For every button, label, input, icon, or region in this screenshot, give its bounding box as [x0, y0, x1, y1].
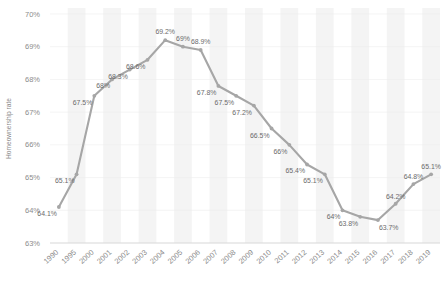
data-point-label: 69.2% — [155, 28, 175, 35]
data-point-marker — [412, 182, 416, 186]
x-tick-label: 2004 — [148, 248, 166, 266]
data-point-marker — [252, 104, 256, 108]
chart-canvas: 63%64%65%66%67%68%69%70% 199019952000200… — [0, 0, 446, 286]
x-tick-label: 2016 — [361, 248, 379, 266]
y-tick-label: 70% — [25, 10, 40, 19]
x-tick-label: 2018 — [396, 248, 414, 266]
data-point-marker — [305, 163, 309, 167]
x-tick-label: 2011 — [273, 248, 291, 265]
x-tick-label: 2000 — [77, 248, 95, 266]
data-point-label: 68.6% — [126, 63, 146, 70]
data-point-label: 64.1% — [37, 210, 57, 217]
data-point-marker — [270, 127, 274, 131]
x-tick-label: 2007 — [201, 248, 219, 266]
data-point-label: 67.2% — [232, 109, 252, 116]
data-point-marker — [287, 143, 291, 147]
data-point-label: 67.5% — [215, 99, 235, 106]
background-band — [68, 8, 86, 243]
background-band — [422, 8, 440, 243]
y-tick-label: 65% — [25, 173, 40, 182]
data-point-label: 65.4% — [285, 167, 305, 174]
data-point-marker — [217, 84, 221, 88]
y-tick-label: 67% — [25, 108, 40, 117]
y-tick-label: 69% — [25, 42, 40, 51]
background-band — [103, 8, 121, 243]
y-tick-label: 66% — [25, 140, 40, 149]
data-point-label: 66.5% — [250, 132, 270, 139]
data-point-marker — [429, 172, 433, 176]
data-point-labels: 64.1%65.1%67.5%68%68.3%68.6%69.2%69%68.9… — [37, 28, 441, 231]
x-tick-label: 2013 — [308, 248, 326, 266]
data-point-marker — [163, 38, 167, 42]
data-point-marker — [323, 172, 327, 176]
background-band — [210, 8, 228, 243]
data-point-label: 65.1% — [55, 177, 75, 184]
alternating-background-bands — [68, 8, 440, 243]
data-point-marker — [394, 202, 398, 206]
y-tick-label: 68% — [25, 75, 40, 84]
background-band — [139, 8, 157, 243]
x-tick-label: 1990 — [42, 248, 60, 266]
x-tick-label: 2017 — [379, 248, 397, 266]
data-point-marker — [181, 45, 185, 49]
homeownership-rate-line-chart: 63%64%65%66%67%68%69%70% 199019952000200… — [0, 0, 446, 286]
data-point-label: 63.7% — [379, 224, 399, 231]
data-point-marker — [358, 215, 362, 219]
data-point-label: 66% — [274, 148, 288, 155]
data-point-label: 65.1% — [303, 177, 323, 184]
x-tick-label: 2001 — [95, 248, 113, 266]
data-point-marker — [376, 218, 380, 222]
background-band — [245, 8, 263, 243]
data-point-marker — [146, 58, 150, 62]
x-tick-label: 2012 — [290, 248, 308, 266]
data-point-marker — [341, 208, 345, 212]
x-tick-label: 2006 — [184, 248, 202, 266]
data-point-label: 64.8% — [404, 173, 424, 180]
background-band — [316, 8, 334, 243]
x-tick-label: 2019 — [414, 248, 432, 266]
x-tick-label: 2005 — [166, 248, 184, 266]
background-band — [387, 8, 405, 243]
data-point-label: 69% — [176, 35, 190, 42]
data-point-marker — [199, 48, 203, 52]
x-tick-label: 2008 — [219, 248, 237, 266]
data-point-label: 63.8% — [339, 220, 359, 227]
data-point-marker — [92, 94, 96, 98]
data-point-label: 65.1% — [421, 163, 441, 170]
data-point-label: 68.3% — [108, 73, 128, 80]
background-band — [351, 8, 369, 243]
data-point-marker — [234, 94, 238, 98]
background-band — [174, 8, 192, 243]
data-point-marker — [75, 172, 79, 176]
data-point-marker — [57, 205, 61, 209]
x-axis-tick-labels: 1990199520002001200220032004200520062007… — [42, 248, 433, 266]
y-axis-title: Homeownership rate — [5, 98, 13, 159]
x-tick-label: 2014 — [325, 248, 343, 266]
y-axis-title-text: Homeownership rate — [5, 98, 13, 159]
y-tick-label: 63% — [25, 239, 40, 248]
x-tick-label: 1995 — [60, 248, 78, 266]
data-point-label: 67.8% — [197, 89, 217, 96]
data-point-label: 67.5% — [73, 99, 93, 106]
x-tick-label: 2002 — [113, 248, 131, 266]
data-point-label: 64.2% — [386, 193, 406, 200]
data-point-label: 68% — [96, 82, 110, 89]
background-band — [280, 8, 298, 243]
x-tick-label: 2015 — [343, 248, 361, 266]
data-point-label: 68.9% — [191, 38, 211, 45]
x-tick-label: 2009 — [237, 248, 255, 266]
x-tick-label: 2003 — [130, 248, 148, 266]
x-tick-label: 2010 — [255, 248, 273, 266]
